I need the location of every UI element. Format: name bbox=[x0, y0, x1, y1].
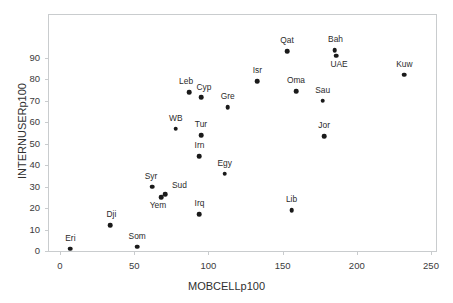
data-point-label: Oma bbox=[287, 76, 305, 85]
data-point bbox=[294, 89, 299, 94]
y-axis-tick-mark bbox=[45, 144, 48, 145]
x-axis-tick-label: 250 bbox=[423, 261, 439, 271]
data-point bbox=[322, 134, 327, 139]
data-point bbox=[332, 48, 337, 53]
data-point-label: Lib bbox=[286, 195, 297, 204]
x-axis-tick-label: 200 bbox=[349, 261, 365, 271]
data-point-label: Som bbox=[129, 232, 146, 241]
data-point-label: UAE bbox=[330, 60, 347, 69]
x-axis-tick-label: 50 bbox=[129, 261, 140, 271]
y-axis-tick-mark bbox=[45, 79, 48, 80]
data-point-label: Cyp bbox=[197, 83, 212, 92]
x-axis-tick-mark bbox=[60, 252, 61, 255]
x-axis-tick-mark bbox=[357, 252, 358, 255]
data-point bbox=[199, 95, 204, 100]
data-point bbox=[187, 90, 192, 95]
data-point bbox=[197, 154, 202, 159]
data-point-label: Leb bbox=[179, 77, 193, 86]
data-point-label: Sau bbox=[315, 86, 330, 95]
y-axis-tick-mark bbox=[45, 187, 48, 188]
x-axis-tick-mark bbox=[134, 252, 135, 255]
data-point-label: Irn bbox=[195, 141, 205, 150]
data-point bbox=[163, 192, 168, 197]
y-axis-tick-mark bbox=[45, 165, 48, 166]
data-point-label: Irq bbox=[195, 199, 205, 208]
y-axis-tick-label: 0 bbox=[0, 246, 40, 256]
x-axis-tick-label: 150 bbox=[275, 261, 291, 271]
data-point-label: WB bbox=[169, 114, 183, 123]
y-axis-tick-mark bbox=[45, 230, 48, 231]
y-axis-title: INTERNUSERp100 bbox=[16, 31, 28, 231]
data-point-label: Egy bbox=[218, 159, 232, 168]
y-axis-tick-mark bbox=[45, 251, 48, 252]
data-point bbox=[135, 244, 140, 249]
data-point bbox=[173, 126, 178, 131]
x-axis-tick-mark bbox=[431, 252, 432, 255]
data-point-label: Jor bbox=[318, 121, 330, 130]
data-point bbox=[289, 208, 294, 213]
data-point bbox=[255, 79, 260, 84]
data-point-label: Eri bbox=[65, 234, 75, 243]
x-axis-tick-mark bbox=[208, 252, 209, 255]
data-point bbox=[197, 212, 202, 217]
data-point bbox=[199, 133, 204, 138]
data-point-label: Kuw bbox=[396, 60, 412, 69]
x-axis-tick-mark bbox=[283, 252, 284, 255]
data-point bbox=[68, 247, 73, 252]
data-point-label: Syr bbox=[145, 172, 158, 181]
y-axis-tick-mark bbox=[45, 208, 48, 209]
y-axis-tick-mark bbox=[45, 58, 48, 59]
data-point-label: Bah bbox=[328, 35, 343, 44]
scatter-plot-figure: 0102030405060708090 050100150200250 EriS… bbox=[0, 0, 453, 303]
y-axis-tick-mark bbox=[45, 122, 48, 123]
data-point-label: Gre bbox=[221, 92, 235, 101]
data-point-label: Tur bbox=[195, 120, 207, 129]
data-point-label: Qat bbox=[280, 36, 294, 45]
data-point bbox=[225, 105, 230, 110]
x-axis-title: MOBCELLp100 bbox=[0, 280, 453, 292]
data-point bbox=[108, 223, 113, 228]
data-point-label: Isr bbox=[253, 66, 262, 75]
data-point bbox=[222, 171, 227, 176]
y-axis-tick-mark bbox=[45, 101, 48, 102]
data-point bbox=[285, 49, 290, 54]
data-point-label: Sud bbox=[172, 181, 187, 190]
x-axis-tick-label: 100 bbox=[200, 261, 216, 271]
data-point-label: Yem bbox=[150, 201, 166, 210]
data-point bbox=[150, 184, 155, 189]
data-point bbox=[320, 98, 325, 103]
x-axis-tick-label: 0 bbox=[57, 261, 62, 271]
data-point-label: Dji bbox=[107, 210, 117, 219]
data-point bbox=[402, 73, 407, 78]
data-point bbox=[334, 53, 339, 58]
